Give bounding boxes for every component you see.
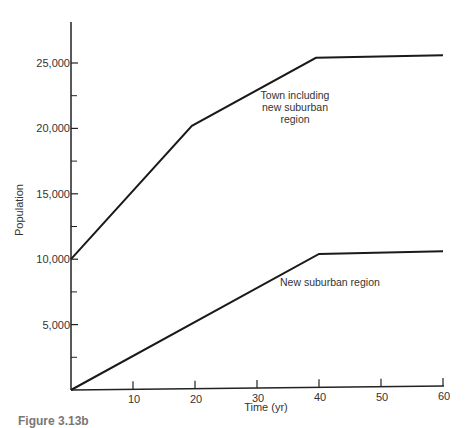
- x-axis-title: Time (yr): [244, 401, 288, 413]
- axes: [71, 22, 444, 390]
- y-tick-label: 10,000: [36, 253, 70, 265]
- y-tick-label: 25,000: [36, 57, 70, 69]
- suburban-annotation: New suburban region: [280, 276, 380, 288]
- town-annotation: Town including: [261, 89, 330, 101]
- x-tick-label: 40: [314, 391, 326, 403]
- labels: 5,00010,00015,00020,00025,00010203040506…: [13, 57, 450, 413]
- suburban-region-line: [71, 251, 443, 390]
- ticks: [71, 63, 443, 389]
- data-lines: [71, 55, 443, 390]
- y-tick-label: 5,000: [42, 319, 70, 331]
- town-annotation: new suburban: [262, 101, 328, 113]
- town-total-line: [71, 55, 443, 259]
- town-annotation: region: [280, 113, 309, 125]
- y-axis-title: Population: [13, 184, 25, 236]
- x-tick-label: 60: [438, 390, 450, 402]
- x-tick-label: 20: [190, 393, 202, 405]
- y-tick-label: 15,000: [36, 188, 70, 200]
- x-tick-label: 10: [128, 393, 140, 405]
- x-tick-label: 50: [376, 391, 388, 403]
- y-tick-label: 20,000: [36, 122, 70, 134]
- figure-caption: Figure 3.13b: [18, 414, 89, 428]
